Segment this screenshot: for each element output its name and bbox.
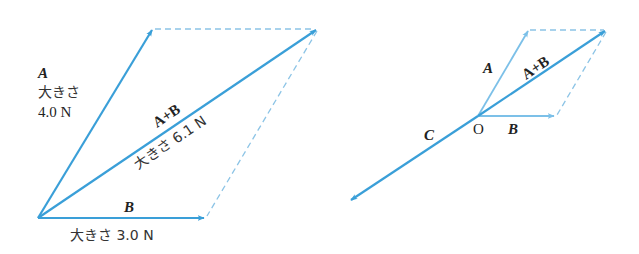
vector-c-arrow	[351, 116, 478, 200]
vector-a-arrow	[38, 30, 152, 218]
dashed-right-side-right	[557, 32, 606, 115]
vector-sum-arrow	[38, 30, 316, 218]
origin-label: O	[473, 121, 484, 137]
right-parallelogram-diagram: A A+B O B C	[351, 30, 606, 200]
vector-a-label: A	[37, 65, 48, 81]
vector-a-magnitude-label: 大きさ	[38, 84, 80, 100]
vector-sum-arrow-right	[478, 31, 605, 116]
vector-b-label-right: B	[507, 121, 518, 137]
vector-a-magnitude-value: 4.0 N	[38, 104, 72, 120]
vector-addition-figure: A 大きさ 4.0 N A+B 大きさ 6.1 N B 大きさ 3.0 N A …	[0, 0, 639, 254]
left-parallelogram-diagram: A 大きさ 4.0 N A+B 大きさ 6.1 N B 大きさ 3.0 N	[37, 29, 317, 243]
dashed-right-side	[207, 31, 317, 216]
vector-a-label-right: A	[482, 60, 493, 76]
vector-b-label: B	[123, 199, 134, 215]
vector-sum-label: A+B	[150, 101, 183, 131]
vector-c-label: C	[424, 127, 435, 143]
vector-b-magnitude: 大きさ 3.0 N	[70, 227, 154, 243]
